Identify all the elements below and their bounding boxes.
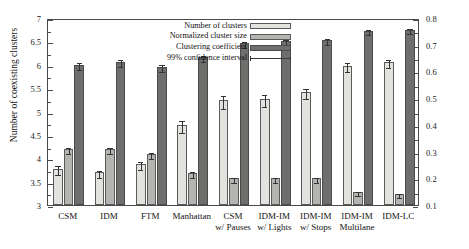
error-bar-cap xyxy=(97,171,102,172)
figure: Number of coexisting clusters Normalized… xyxy=(0,0,469,249)
y-tick-right xyxy=(413,20,418,21)
error-bar-cap xyxy=(149,159,154,160)
bar xyxy=(343,66,353,205)
y-tick-label-left: 7 xyxy=(7,15,41,24)
error-bar-cap xyxy=(273,178,278,179)
error-bar-cap xyxy=(66,148,71,149)
y-tick-label-right: 0.1 xyxy=(426,202,460,211)
y-tick-left xyxy=(48,207,53,208)
y-tick-label-right: 0.7 xyxy=(426,42,460,51)
bar xyxy=(177,125,187,205)
bar xyxy=(219,100,229,205)
y-tick-label-right: 0.5 xyxy=(426,95,460,104)
error-bar-cap xyxy=(77,70,82,71)
chart-legend: Number of clustersNormalized cluster siz… xyxy=(113,21,291,65)
legend-swatch xyxy=(250,34,291,40)
y-tick-label-right: 0.4 xyxy=(426,122,460,131)
y-minor-tick-right xyxy=(415,33,418,34)
error-bar xyxy=(347,63,348,72)
error-bar-cap xyxy=(138,162,143,163)
y-tick-left xyxy=(48,20,53,21)
y-tick-label-left: 5 xyxy=(7,109,41,118)
bar xyxy=(281,41,291,205)
error-bar-cap xyxy=(303,99,308,100)
y-tick-label-right: 0.3 xyxy=(426,149,460,158)
x-tick-label-line: Multilane xyxy=(324,222,390,233)
bar xyxy=(384,62,394,205)
error-bar-cap xyxy=(138,170,143,171)
bar xyxy=(322,40,332,205)
legend-item: 99% confidence interval xyxy=(113,54,291,64)
error-bar xyxy=(141,162,142,169)
error-bar-cap xyxy=(159,65,164,66)
error-bar-cap xyxy=(231,178,236,179)
error-bar-cap xyxy=(221,96,226,97)
y-tick-label-left: 5.5 xyxy=(7,85,41,94)
error-bar-cap xyxy=(366,35,371,36)
error-bar-cap xyxy=(231,183,236,184)
error-bar-cap xyxy=(262,107,267,108)
y-tick-left xyxy=(48,90,53,91)
legend-errorbar-marker xyxy=(250,58,291,59)
error-bar-cap xyxy=(397,198,402,199)
error-bar-cap xyxy=(397,194,402,195)
legend-swatch xyxy=(250,23,291,29)
bar xyxy=(157,67,167,205)
y-tick-left xyxy=(48,43,53,44)
error-bar-cap xyxy=(107,148,112,149)
error-bar-cap xyxy=(345,63,350,64)
error-bar-cap xyxy=(118,67,123,68)
error-bar xyxy=(79,63,80,70)
y-minor-tick-left xyxy=(48,32,51,33)
y-tick-left xyxy=(48,184,53,185)
y-tick-label-left: 4 xyxy=(7,155,41,164)
y-minor-tick-left xyxy=(48,149,51,150)
error-bar-cap xyxy=(325,45,330,46)
bar xyxy=(116,62,126,205)
y-tick-label-right: 0.8 xyxy=(426,15,460,24)
y-minor-tick-left xyxy=(48,102,51,103)
y-tick-label-left: 6.5 xyxy=(7,38,41,47)
error-bar-cap xyxy=(159,72,164,73)
x-tick-label: IDM-LC xyxy=(365,211,431,222)
error-bar-cap xyxy=(262,95,267,96)
error-bar-cap xyxy=(314,183,319,184)
legend-label: 99% confidence interval xyxy=(167,53,247,62)
error-bar xyxy=(223,96,224,109)
error-bar-cap xyxy=(190,178,195,179)
y-tick-label-left: 4.5 xyxy=(7,132,41,141)
y-minor-tick-left xyxy=(48,195,51,196)
y-minor-tick-left xyxy=(48,125,51,126)
bar xyxy=(260,99,270,205)
error-bar xyxy=(389,60,390,68)
bar xyxy=(105,149,115,205)
error-bar-cap xyxy=(386,68,391,69)
error-bar-cap xyxy=(55,175,60,176)
y-tick-label-right: 0.6 xyxy=(426,68,460,77)
y-tick-label-left: 3.5 xyxy=(7,179,41,188)
legend-label: Clustering coefficient xyxy=(176,42,247,51)
y-minor-tick-right xyxy=(415,87,418,88)
legend-item: Clustering coefficient xyxy=(113,43,291,53)
y-minor-tick-left xyxy=(48,55,51,56)
error-bar xyxy=(58,166,59,175)
error-bar xyxy=(265,95,266,107)
y-minor-tick-right xyxy=(415,167,418,168)
error-bar-cap xyxy=(314,178,319,179)
y-tick-label-left: 6 xyxy=(7,62,41,71)
y-minor-tick-right xyxy=(415,114,418,115)
legend-swatch xyxy=(250,45,291,51)
error-bar-cap xyxy=(407,29,412,30)
error-bar-cap xyxy=(179,133,184,134)
bar xyxy=(301,92,311,205)
x-tick-label-line: IDM-LC xyxy=(365,211,431,222)
y-minor-tick-left xyxy=(48,172,51,173)
error-bar xyxy=(162,65,163,72)
bar xyxy=(198,57,208,205)
error-bar-cap xyxy=(303,89,308,90)
y-minor-tick-right xyxy=(415,194,418,195)
bar xyxy=(364,31,374,205)
error-bar xyxy=(306,89,307,99)
y-minor-tick-right xyxy=(415,60,418,61)
error-bar-cap xyxy=(221,109,226,110)
